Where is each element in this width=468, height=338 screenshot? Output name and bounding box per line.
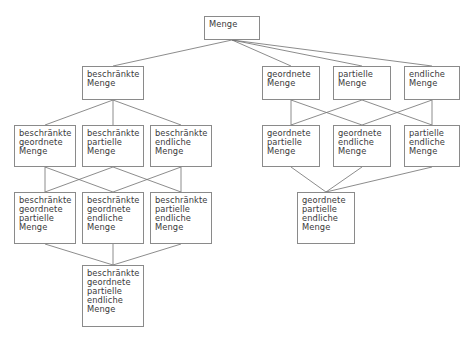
node-b-g-partielle: beschränkte geordnete partielle Menge [14,192,76,244]
edge-geordnete-to-g-endliche [291,100,362,125]
edge-endliche-to-g-endliche [362,100,432,125]
edge-beschraenkte-to-b-endliche [113,100,181,125]
node-g-endliche: geordnete endliche Menge [333,125,391,167]
node-b-p-endliche: beschränkte partielle endliche Menge [150,192,212,244]
edge-p-endliche-to-g-p-endliche [326,167,432,192]
edge-menge-to-partielle [232,40,362,66]
edge-b-partielle-to-b-g-partielle [45,167,113,192]
edge-partielle-to-g-partielle [291,100,362,125]
node-b-geordnete: beschränkte geordnete Menge [14,125,76,167]
edge-layer [0,0,468,338]
hasse-diagram: Mengebeschränkte Mengegeordnete Mengepar… [0,0,468,338]
edge-b-geordnete-to-b-g-endliche [45,167,113,192]
edge-b-g-partielle-to-b-g-p-endliche [45,244,113,265]
node-endliche: endliche Menge [404,66,460,100]
node-beschraenkte: beschränkte Menge [82,66,144,100]
edge-beschraenkte-to-b-geordnete [45,100,113,125]
node-b-g-p-endliche: beschränkte geordnete partielle endliche… [82,265,144,327]
edge-menge-to-beschraenkte [113,40,232,66]
edge-menge-to-geordnete [232,40,291,66]
edge-menge-to-endliche [232,40,432,66]
node-g-p-endliche: geordnete partielle endliche Menge [297,192,355,244]
node-b-endliche: beschränkte endliche Menge [150,125,212,167]
edge-b-p-endliche-to-b-g-p-endliche [113,244,181,265]
node-b-partielle: beschränkte partielle Menge [82,125,144,167]
node-partielle: partielle Menge [333,66,391,100]
edge-partielle-to-p-endliche [362,100,432,125]
edge-b-endliche-to-b-g-endliche [113,167,181,192]
edge-g-partielle-to-g-p-endliche [291,167,326,192]
node-geordnete: geordnete Menge [262,66,320,100]
node-p-endliche: partielle endliche Menge [404,125,460,167]
edge-g-endliche-to-g-p-endliche [326,167,362,192]
edge-b-partielle-to-b-p-endliche [113,167,181,192]
node-g-partielle: geordnete partielle Menge [262,125,320,167]
node-menge: Menge [204,16,260,40]
node-b-g-endliche: beschränkte geordnete endliche Menge [82,192,144,244]
